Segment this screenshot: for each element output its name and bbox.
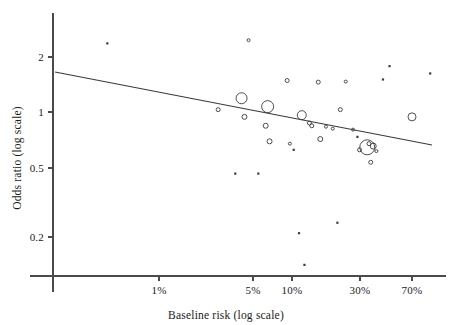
x-tick-label: 70% <box>402 284 423 296</box>
data-point <box>370 143 376 149</box>
data-point <box>293 149 295 151</box>
regression-line <box>55 72 432 145</box>
data-point <box>288 142 291 145</box>
data-point <box>356 136 358 138</box>
data-point <box>298 232 300 234</box>
data-point <box>216 108 220 112</box>
data-point <box>338 108 342 112</box>
data-point <box>234 173 236 175</box>
data-point <box>262 101 274 113</box>
data-point <box>375 150 378 153</box>
x-tick-label: 30% <box>350 284 371 296</box>
data-point <box>242 114 247 119</box>
data-point <box>369 160 373 164</box>
data-point <box>344 80 347 83</box>
data-point <box>247 39 250 42</box>
data-point <box>388 65 390 67</box>
data-points-group <box>106 39 431 266</box>
data-point <box>382 78 384 80</box>
data-point <box>267 139 272 144</box>
data-point <box>236 93 247 104</box>
data-point <box>303 264 305 266</box>
data-point <box>106 42 108 44</box>
y-axis-title: Odds ratio (log scale) <box>11 78 23 238</box>
data-point <box>316 80 320 84</box>
axes-group <box>30 13 446 292</box>
data-point <box>285 79 289 83</box>
data-point <box>257 173 259 175</box>
tick-marks-group <box>48 57 412 281</box>
data-point <box>318 137 323 142</box>
scatter-plot-figure: 210.50.2 1%5%10%30%70% Baseline risk (lo… <box>0 0 452 325</box>
y-tick-label: 2 <box>10 51 44 63</box>
data-point <box>429 72 431 74</box>
x-axis-title: Baseline risk (log scale) <box>0 309 452 321</box>
data-point <box>324 125 327 128</box>
data-point <box>263 123 268 128</box>
x-tick-label: 1% <box>151 284 166 296</box>
data-point <box>336 222 338 224</box>
data-point <box>310 124 314 128</box>
data-point <box>408 113 416 121</box>
data-point <box>331 127 334 130</box>
x-tick-label: 10% <box>282 284 303 296</box>
x-tick-label: 5% <box>245 284 260 296</box>
data-point <box>297 111 306 120</box>
plot-canvas <box>0 0 452 325</box>
